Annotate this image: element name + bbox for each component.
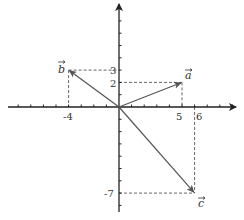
- vector-diagram: -4 5 6 3 2 -7 a b c: [0, 0, 244, 220]
- y-label-2: 2: [110, 78, 116, 89]
- vector-c: [119, 107, 194, 192]
- vector-labels: a b c: [58, 61, 205, 211]
- axes: [8, 4, 236, 212]
- vector-label-c: c: [198, 197, 205, 211]
- guide-lines: [69, 70, 195, 193]
- vector-label-b: b: [58, 61, 65, 77]
- y-label-neg7: -7: [104, 188, 114, 199]
- x-label-5: 5: [176, 111, 182, 122]
- y-label-3: 3: [110, 65, 116, 76]
- vector-a: [119, 83, 181, 107]
- vector-b-label: b: [58, 63, 65, 76]
- x-label-6: 6: [196, 111, 202, 122]
- x-label-neg4: -4: [63, 111, 73, 122]
- vectors: [69, 71, 193, 193]
- vector-label-a: a: [185, 69, 192, 83]
